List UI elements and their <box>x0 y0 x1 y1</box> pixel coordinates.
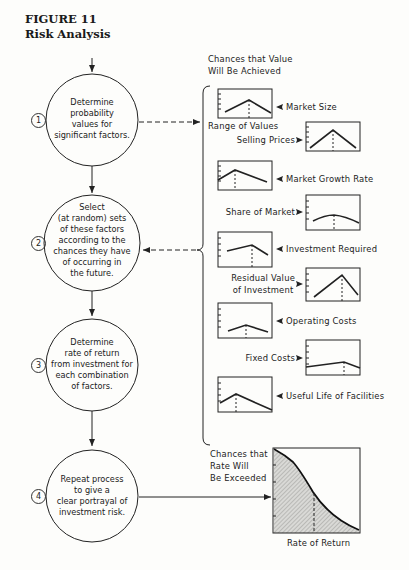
pointer-fixed <box>296 355 303 361</box>
label-market-size: Market Size <box>286 102 337 112</box>
factors-brace <box>197 86 210 445</box>
label-investment-required: Investment Required <box>286 244 377 254</box>
step-2-text: Select(at random) setsof these factorsac… <box>47 202 137 279</box>
label-selling-prices: Selling Prices <box>237 135 295 145</box>
step-4-text: Repeat processto give aclear portrayal o… <box>47 474 137 518</box>
chart-fixed-costs <box>306 340 360 375</box>
result-chart <box>273 448 360 533</box>
step-1-text: Determineprobabilityvalues forsignifican… <box>47 97 137 141</box>
pointer-residual <box>296 281 303 287</box>
result-xlabel: Rate of Return <box>287 538 350 548</box>
chart-investment-required <box>218 232 272 267</box>
label-residual-value: Residual Valueof Investment <box>231 272 295 296</box>
result-ylabel: Chances thatRate WillBe Exceeded <box>210 448 268 484</box>
chart-operating-costs <box>218 303 272 338</box>
pointer-useful-life <box>276 393 283 399</box>
step-3-text: Determinerate of returnfrom investment f… <box>45 337 139 392</box>
step-2-number: 2 <box>31 236 46 251</box>
label-fixed-costs: Fixed Costs <box>245 353 295 363</box>
step-4-number: 4 <box>31 489 46 504</box>
pointer-selling-prices <box>296 137 303 143</box>
chart-residual-value <box>306 268 360 301</box>
pointer-investment <box>276 246 283 252</box>
label-share-of-market: Share of Market <box>226 207 295 217</box>
chart-market-growth-rate <box>218 161 272 190</box>
pointer-market-growth <box>276 176 283 182</box>
chart-market-size <box>218 89 272 118</box>
label-operating-costs: Operating Costs <box>286 316 357 326</box>
pointer-operating <box>276 318 283 324</box>
chart-useful-life <box>218 377 272 412</box>
factors-header: Chances that ValueWill Be Achieved <box>208 53 293 77</box>
label-market-growth-rate: Market Growth Rate <box>286 174 373 184</box>
step-3-number: 3 <box>31 358 46 373</box>
step-1-number: 1 <box>31 113 46 128</box>
chart-share-of-market <box>306 195 360 230</box>
pointer-share <box>296 209 303 215</box>
range-of-values-label: Range of Values <box>208 121 278 131</box>
chart-selling-prices <box>306 122 360 151</box>
label-useful-life: Useful Life of Facilities <box>286 391 384 401</box>
pointer-market-size <box>276 104 283 110</box>
